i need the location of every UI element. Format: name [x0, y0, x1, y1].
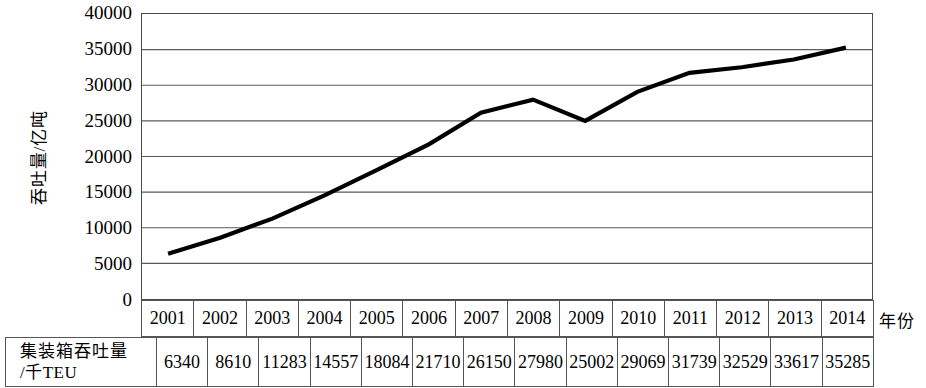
y-axis-tick-label: 35000 [52, 39, 132, 58]
year-cell: 2005 [351, 301, 403, 337]
plot-svg [142, 14, 872, 299]
year-cell: 2009 [560, 301, 612, 337]
x-axis-year-row: 2001200220032004200520062007200820092010… [141, 300, 874, 337]
y-axis-tick-label: 10000 [52, 218, 132, 237]
plot-area [141, 13, 873, 300]
year-cell: 2008 [507, 301, 559, 337]
container-throughput-row: 集装箱吞吐量 /千TEU 634086101128314557180842171… [5, 337, 874, 387]
year-cell: 2004 [298, 301, 350, 337]
throughput-cell: 26150 [464, 338, 515, 387]
y-axis-tick-label: 0 [52, 290, 132, 309]
throughput-cell: 25002 [566, 338, 617, 387]
year-cell: 2006 [403, 301, 455, 337]
y-axis-tick-label: 25000 [52, 111, 132, 130]
year-cell: 2014 [821, 301, 873, 337]
y-axis-tick-label: 40000 [52, 3, 132, 22]
throughput-cell: 18084 [361, 338, 412, 387]
throughput-cell: 6340 [157, 338, 208, 387]
table-row: 2001200220032004200520062007200820092010… [142, 301, 874, 337]
data-table: 集装箱吞吐量 /千TEU 634086101128314557180842171… [5, 337, 874, 387]
y-axis-tick-label: 20000 [52, 147, 132, 166]
throughput-cell: 8610 [208, 338, 259, 387]
year-cell: 2002 [194, 301, 246, 337]
year-cell: 2012 [717, 301, 769, 337]
year-cell: 2013 [769, 301, 821, 337]
year-cell: 2010 [612, 301, 664, 337]
throughput-cell: 33617 [771, 338, 822, 387]
data-series-line [168, 48, 846, 254]
year-cell: 2001 [142, 301, 194, 337]
throughput-cell: 11283 [259, 338, 310, 387]
row-label-cell: 集装箱吞吐量 /千TEU [6, 338, 157, 387]
throughput-cell: 29069 [617, 338, 668, 387]
year-table: 2001200220032004200520062007200820092010… [141, 300, 874, 337]
table-row: 集装箱吞吐量 /千TEU 634086101128314557180842171… [6, 338, 874, 387]
year-cell: 2003 [246, 301, 298, 337]
year-cell: 2011 [664, 301, 716, 337]
throughput-cell: 35285 [822, 338, 873, 387]
throughput-cell: 32529 [720, 338, 771, 387]
row-label-line2: /千TEU [20, 362, 156, 383]
y-axis-tick-label: 5000 [52, 254, 132, 273]
throughput-cell: 21710 [413, 338, 464, 387]
year-cell: 2007 [455, 301, 507, 337]
y-axis-tick-label: 30000 [52, 75, 132, 94]
chart-figure: 吞吐量/亿吨 400003500030000250002000015000100… [0, 0, 926, 388]
y-axis-tick-label: 15000 [52, 182, 132, 201]
throughput-cell: 31739 [669, 338, 720, 387]
x-axis-title: 年份 [879, 307, 915, 332]
throughput-cell: 27980 [515, 338, 566, 387]
y-axis-tick-labels: 4000035000300002500020000150001000050000 [52, 0, 132, 388]
throughput-cell: 14557 [310, 338, 361, 387]
y-axis-title: 吞吐量/亿吨 [25, 58, 50, 258]
row-label-line1: 集装箱吞吐量 [20, 341, 156, 362]
